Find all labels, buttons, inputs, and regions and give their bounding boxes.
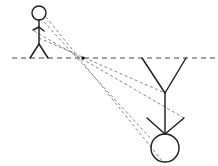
inverted-head — [151, 134, 179, 162]
ray-1 — [46, 17, 163, 162]
inverted-right-leg — [165, 58, 186, 93]
ray-3 — [34, 31, 184, 118]
inverted-left-leg — [142, 58, 165, 93]
reflection-diagram — [0, 0, 218, 166]
upright-head — [32, 6, 46, 20]
diagram-canvas — [0, 0, 218, 166]
upright-right-leg — [39, 44, 48, 58]
pivot-point — [81, 56, 84, 59]
upright-left-leg — [30, 44, 39, 58]
light-rays — [34, 17, 184, 162]
upright-right-arm — [39, 27, 44, 31]
inverted-right-arm — [165, 118, 184, 134]
ray-2 — [44, 22, 152, 140]
inverted-stick-figure — [142, 58, 186, 162]
upright-left-arm — [33, 27, 39, 30]
inverted-left-arm — [147, 118, 165, 134]
upright-stick-figure — [30, 6, 48, 58]
